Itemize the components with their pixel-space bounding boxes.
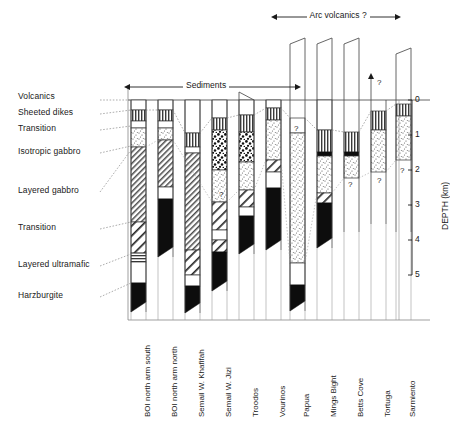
column-sarmiento bbox=[396, 48, 411, 320]
bracket-label-arc-volcanics: Arc volcanics ? bbox=[307, 10, 370, 20]
correlation-transition-lower bbox=[100, 222, 131, 229]
layer-sheeted-dikes bbox=[317, 130, 332, 152]
layer-sheeted-dikes bbox=[131, 110, 146, 121]
column-top-extension bbox=[290, 38, 305, 100]
layer-sheeted-dikes bbox=[396, 104, 411, 116]
layer-isotropic-gabbro bbox=[344, 156, 359, 178]
column-label-semail-w-khafifah: Semail W. Khafifah bbox=[197, 349, 206, 417]
column-troodos bbox=[239, 92, 254, 320]
unit-label-harzburgite: Harzburgite bbox=[18, 290, 63, 300]
correlation-gabbro-base bbox=[227, 190, 239, 202]
layer-transition bbox=[317, 193, 332, 203]
column-semail-w-khafifah bbox=[185, 100, 200, 320]
correlation-dikes-span bbox=[305, 118, 317, 130]
column-betts-cove bbox=[344, 38, 359, 320]
layer-isotropic-gabbro bbox=[317, 156, 332, 193]
question-mark-top-arrow-q: ? bbox=[377, 78, 381, 87]
question-mark-tortuga-q: ? bbox=[377, 176, 381, 185]
unit-label-volcanics: Volcanics bbox=[18, 91, 55, 101]
column-papua bbox=[290, 38, 305, 320]
unit-label-transition-lower: Transition bbox=[18, 222, 56, 232]
column-top-extension bbox=[396, 48, 411, 100]
layer-layered-gabbro bbox=[239, 162, 254, 190]
correlation-dikes-span bbox=[332, 130, 344, 132]
layer-volcanics bbox=[239, 100, 254, 115]
layer-volcanics bbox=[131, 100, 146, 110]
question-mark-papua-dike-q: ? bbox=[294, 124, 298, 133]
columns-group bbox=[131, 38, 411, 320]
correlation-transition-upper bbox=[100, 126, 131, 130]
layer-sheeted-dikes bbox=[185, 133, 200, 147]
layer-layered-gabbro bbox=[158, 140, 173, 187]
layer-volcanics bbox=[185, 100, 200, 133]
layer-harzburgite bbox=[158, 199, 173, 257]
depth-tick-label-0: 0 bbox=[415, 94, 420, 104]
depth-axis-title: DEPTH (km) bbox=[440, 182, 450, 230]
depth-tick-label-3: 3 bbox=[415, 199, 420, 209]
layer-layered-ultramafic bbox=[158, 187, 173, 199]
layer-layered-ultramafic bbox=[212, 230, 227, 240]
unit-label-sheeted-dikes: Sheeted dikes bbox=[18, 107, 73, 117]
layer-harzburgite bbox=[212, 252, 227, 291]
layer-volcanics bbox=[266, 100, 281, 108]
column-top-extension bbox=[317, 38, 332, 100]
question-mark-betts-cove-q: ? bbox=[348, 180, 352, 189]
column-label-boi-north-arm-north: BOI north arm north bbox=[170, 346, 179, 417]
layer-sheeted-dikes bbox=[212, 118, 227, 130]
correlation-isotropic-gabbro bbox=[100, 146, 131, 153]
column-label-mings-bight: Mings Bight bbox=[329, 375, 338, 417]
layer-sheeted-dikes bbox=[266, 108, 281, 120]
correlation-gabbro-base bbox=[332, 178, 344, 193]
correlation-dikes-span bbox=[359, 111, 371, 132]
depth-tick-label-4: 4 bbox=[415, 234, 420, 244]
layer-transition bbox=[131, 222, 146, 253]
column-label-sarmiento: Sarmiento bbox=[408, 381, 417, 417]
layer-transition bbox=[317, 152, 332, 156]
layer-layered-ultramafic bbox=[290, 263, 305, 285]
correlation-sheeted-dikes bbox=[100, 110, 131, 114]
layer-layered-ultramafic bbox=[185, 275, 200, 286]
depth-tick-label-2: 2 bbox=[415, 164, 420, 174]
depth-tick-label-1: 1 bbox=[415, 129, 420, 139]
layer-harzburgite bbox=[239, 216, 254, 254]
layer-transition bbox=[344, 152, 359, 156]
layer-isotropic-gabbro bbox=[396, 116, 411, 160]
layer-layered-ultramafic-band bbox=[131, 253, 146, 262]
correlation-gabbro-base bbox=[359, 172, 371, 178]
layer-layered-ultramafic bbox=[266, 172, 281, 188]
layer-sheeted-dikes bbox=[344, 132, 359, 152]
question-mark-jizi-q: ? bbox=[219, 190, 223, 199]
column-boi-north-arm-north bbox=[158, 100, 173, 320]
layer-sheeted-dikes bbox=[371, 111, 386, 130]
layer-layered-gabbro-2 bbox=[212, 202, 227, 230]
column-tortuga bbox=[371, 78, 386, 320]
ophiolite-column-figure: VolcanicsSheeted dikesTransitionIsotropi… bbox=[0, 0, 450, 429]
layer-harzburgite bbox=[317, 203, 332, 248]
correlation-gabbro-base bbox=[146, 140, 158, 147]
correlation-dikes-span bbox=[173, 110, 185, 133]
layer-layered-gabbro bbox=[131, 147, 146, 222]
layer-isotropic-gabbro bbox=[371, 130, 386, 172]
layer-layered-ultramafic bbox=[131, 262, 146, 283]
correlation-dikes-span bbox=[386, 104, 396, 111]
question-mark-sarmiento-q: ? bbox=[400, 166, 404, 175]
layer-isotropic-gabbro bbox=[239, 132, 254, 162]
column-label-betts-cove: Betts Cove bbox=[356, 378, 365, 417]
layer-layered-gabbro bbox=[185, 153, 200, 250]
column-label-vourinos: Vourinos bbox=[278, 386, 287, 417]
layer-isotropic-gabbro bbox=[158, 128, 173, 140]
column-semail-w-jizi bbox=[212, 100, 227, 320]
column-mings-bight bbox=[317, 38, 332, 320]
layer-isotropic-gabbro bbox=[131, 128, 146, 147]
correlation-layered-gabbro bbox=[100, 150, 131, 192]
layer-volcanics bbox=[158, 100, 173, 110]
layer-sheeted-dikes bbox=[239, 115, 254, 132]
layer-harzburgite bbox=[131, 283, 146, 312]
column-label-tortuga: Tortuga bbox=[383, 390, 392, 417]
unit-label-isotropic-gabbro: Isotropic gabbro bbox=[18, 146, 81, 156]
layer-layered-ultramafic bbox=[239, 207, 254, 216]
correlation-gabbro-base bbox=[386, 160, 396, 172]
layer-transition bbox=[212, 240, 227, 252]
correlation-dikes-span bbox=[200, 118, 212, 133]
figure-canvas bbox=[0, 0, 450, 429]
